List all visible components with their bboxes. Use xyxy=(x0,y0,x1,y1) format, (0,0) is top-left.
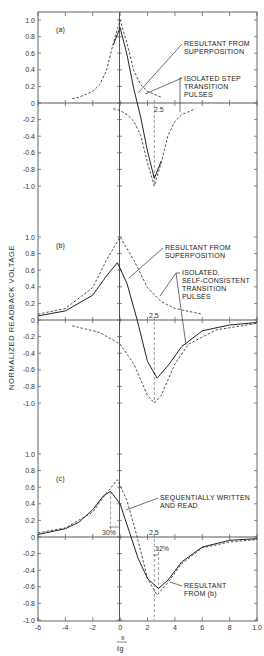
y-tick-label: -0.8 xyxy=(23,383,35,390)
annotation-c-resultant: RESULTANT xyxy=(184,582,227,589)
leader-a-isolated-1 xyxy=(145,78,182,94)
y-tick-label: 0.8 xyxy=(25,250,35,257)
shift-label-12pct: 12% xyxy=(155,545,169,552)
y-tick-label: -0.4 xyxy=(23,133,35,140)
y-tick-label: -0.8 xyxy=(23,166,35,173)
x-tick-label: -6 xyxy=(35,624,41,631)
y-tick-label: -0.6 xyxy=(23,366,35,373)
y-tick-label: 0.6 xyxy=(25,50,35,57)
annotation-b-isolated-3: TRANSITION xyxy=(182,285,226,292)
x-axis-label-denominator: ℓg xyxy=(116,645,124,653)
annotation-a-isolated-2: TRANSITION xyxy=(184,83,228,90)
shift-label-30pct: 30% xyxy=(102,529,116,536)
figure: 1.00.80.60.40.20-0.2-0.4-0.6-0.8-1.01.00… xyxy=(0,0,264,656)
x-tick-label: 4 xyxy=(173,624,177,631)
leader-a-isolated-2 xyxy=(180,78,182,112)
panel-label-b: (b) xyxy=(56,242,65,250)
y-tick-label: 0 xyxy=(31,534,35,541)
annotation-b-resultant: RESULTANT FROM xyxy=(165,244,231,251)
panel-label-c: (c) xyxy=(56,475,65,483)
annotation-b-isolated-2: SELF-CONSISTENT xyxy=(182,277,250,284)
dashed-curve xyxy=(72,20,161,99)
y-tick-label: -1.0 xyxy=(23,617,35,624)
x-tick-label: 0 xyxy=(118,624,122,631)
annotation-b-isolated: ISOLATED, xyxy=(182,269,220,276)
panel-axes xyxy=(38,12,257,621)
y-tick-label: -0.8 xyxy=(23,600,35,607)
annotation-c-sequential-2: AND READ xyxy=(160,502,198,509)
y-tick-label: 0 xyxy=(31,100,35,107)
y-tick-label: -1.0 xyxy=(23,183,35,190)
y-tick-label: -0.6 xyxy=(23,149,35,156)
leader-b-isolated-1 xyxy=(160,273,180,296)
annotation-c-resultant-2: FROM (b) xyxy=(184,590,217,598)
marker-2-5-a: 2.5 xyxy=(154,106,164,113)
y-tick-label: -0.4 xyxy=(23,350,35,357)
y-tick-label: 0.2 xyxy=(25,83,35,90)
leader-c-resultant xyxy=(170,582,182,586)
y-tick-label: 0.8 xyxy=(25,33,35,40)
y-tick-label: 0.2 xyxy=(25,517,35,524)
leader-b-resultant xyxy=(129,248,163,278)
marker-2-5-c: 2.5 xyxy=(149,529,159,536)
y-tick-label: 0.4 xyxy=(25,66,35,73)
x-tick-label: 6 xyxy=(200,624,204,631)
leader-c-sequential xyxy=(126,498,158,510)
x-tick-label: -4 xyxy=(62,624,68,631)
x-tick-label: 1.0 xyxy=(252,624,262,631)
x-tick-label: 2 xyxy=(146,624,150,631)
x-tick-label: -2 xyxy=(90,624,96,631)
curves xyxy=(38,20,257,595)
y-axis-label: NORMALIZED READBACK VOLTAGE xyxy=(7,245,16,390)
y-tick-label: 0 xyxy=(31,317,35,324)
y-tick-label: 1.0 xyxy=(25,234,35,241)
tick-labels: 1.00.80.60.40.20-0.2-0.4-0.6-0.8-1.01.00… xyxy=(23,17,262,632)
annotation-c-sequential: SEQUENTIALLY WRITTEN xyxy=(160,494,250,502)
annotation-b-isolated-4: PULSES xyxy=(182,293,211,300)
annotation-b-resultant-2: SUPERPOSITION xyxy=(165,252,225,259)
panel-label-a: (a) xyxy=(56,26,65,34)
marker-2-5-b: 2.5 xyxy=(149,312,159,319)
y-tick-label: -0.2 xyxy=(23,116,35,123)
y-tick-label: 1.0 xyxy=(25,17,35,24)
y-tick-label: 0.4 xyxy=(25,283,35,290)
y-tick-label: -0.6 xyxy=(23,583,35,590)
annotation-a-isolated-3: PULSES xyxy=(184,91,213,98)
y-tick-label: -0.4 xyxy=(23,567,35,574)
y-tick-label: -0.2 xyxy=(23,333,35,340)
annotation-a-isolated: ISOLATED STEP xyxy=(184,75,241,82)
y-tick-label: 0.8 xyxy=(25,467,35,474)
y-tick-label: 0.2 xyxy=(25,300,35,307)
y-tick-label: -0.2 xyxy=(23,550,35,557)
x-tick-label: 8 xyxy=(228,624,232,631)
y-tick-label: 0.6 xyxy=(25,267,35,274)
annotation-a-resultant: RESULTANT FROM xyxy=(184,40,250,47)
annotation-a-resultant-2: SUPERPOSITION xyxy=(184,48,244,55)
leader-a-resultant xyxy=(138,44,182,93)
y-tick-label: 1.0 xyxy=(25,451,35,458)
dashed-curve xyxy=(72,323,257,403)
y-tick-label: -1.0 xyxy=(23,400,35,407)
y-tick-label: 0.6 xyxy=(25,484,35,491)
y-tick-label: 0.4 xyxy=(25,500,35,507)
x-axis-label-numerator: x xyxy=(121,634,125,641)
